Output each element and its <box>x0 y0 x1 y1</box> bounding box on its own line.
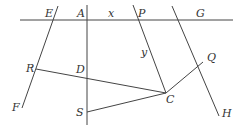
label-D: D <box>75 63 85 76</box>
label-S: S <box>76 106 84 119</box>
label-F: F <box>11 101 20 114</box>
label-x: x <box>108 7 115 20</box>
line-EF <box>22 6 58 108</box>
label-E: E <box>44 7 53 20</box>
label-R: R <box>25 62 34 75</box>
geometry-diagram: E A x P G y R D Q C S F H <box>0 0 245 126</box>
label-Q: Q <box>207 51 216 64</box>
segment-CQ <box>166 62 203 93</box>
label-A: A <box>76 7 85 20</box>
segment-SC <box>87 93 166 112</box>
label-C: C <box>166 93 175 106</box>
segment-RC <box>36 69 166 93</box>
label-H: H <box>221 107 232 120</box>
label-P: P <box>137 7 146 20</box>
label-G: G <box>196 7 205 20</box>
label-y: y <box>140 46 148 59</box>
